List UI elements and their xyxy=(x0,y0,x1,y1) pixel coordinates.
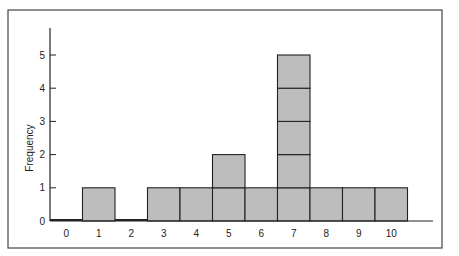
histogram-unit-square xyxy=(310,188,343,221)
y-axis-title: Frequency xyxy=(24,124,35,171)
y-tick-label: 3 xyxy=(39,116,45,127)
y-tick-label: 0 xyxy=(39,216,45,227)
y-tick-label: 5 xyxy=(39,50,45,61)
x-tick-label: 9 xyxy=(356,228,362,239)
histogram-unit-square xyxy=(375,188,408,221)
histogram-unit-square xyxy=(245,188,278,221)
histogram-unit-square xyxy=(278,55,311,88)
histogram-unit-square xyxy=(148,188,181,221)
histogram-unit-square xyxy=(83,188,116,221)
y-tick-label: 2 xyxy=(39,149,45,160)
x-tick-label: 3 xyxy=(161,228,167,239)
histogram-unit-square xyxy=(180,188,213,221)
histogram-unit-square xyxy=(278,188,311,221)
x-tick-label: 8 xyxy=(323,228,329,239)
x-tick-label: 4 xyxy=(193,228,199,239)
x-tick-label: 6 xyxy=(258,228,264,239)
histogram-unit-square xyxy=(278,155,311,188)
x-tick-label: 10 xyxy=(386,228,398,239)
x-tick-label: 0 xyxy=(63,228,69,239)
histogram-unit-square xyxy=(278,88,311,121)
histogram-unit-square xyxy=(213,155,246,188)
x-tick-label: 1 xyxy=(96,228,102,239)
x-tick-label: 7 xyxy=(291,228,297,239)
y-tick-label: 1 xyxy=(39,182,45,193)
x-tick-label: 5 xyxy=(226,228,232,239)
x-tick-label: 2 xyxy=(128,228,134,239)
y-tick-label: 4 xyxy=(39,83,45,94)
histogram-chart: 012345 012345678910 Frequency xyxy=(0,0,459,256)
histogram-unit-square xyxy=(343,188,376,221)
histogram-unit-square xyxy=(213,188,246,221)
histogram-unit-square xyxy=(278,121,311,154)
